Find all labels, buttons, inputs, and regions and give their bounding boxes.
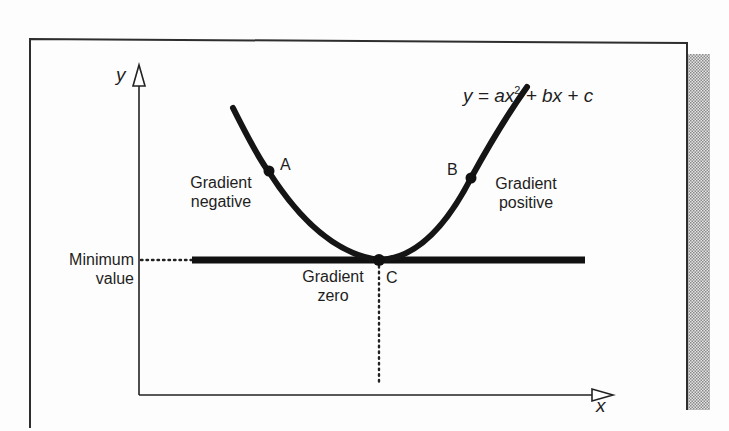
equation-suffix: + bx + c	[520, 85, 593, 106]
point-b-label: B	[447, 160, 458, 179]
point-c-marker	[373, 254, 385, 266]
y-axis-arrow-icon	[133, 65, 145, 86]
gradient-zero-line1: Gradient	[292, 267, 374, 286]
frame-shadow	[688, 54, 710, 410]
x-axis-label: x	[596, 396, 606, 415]
point-a-marker	[264, 166, 275, 177]
diagram-canvas	[0, 0, 729, 431]
point-b-marker	[466, 173, 477, 184]
gradient-negative-label: Gradient negative	[180, 173, 262, 211]
gradient-zero-label: Gradient zero	[292, 267, 374, 305]
gradient-negative-line1: Gradient	[180, 173, 262, 192]
gradient-positive-label: Gradient positive	[485, 174, 567, 212]
point-a-label: A	[280, 155, 291, 174]
minimum-value-line2: value	[44, 269, 134, 288]
gradient-positive-line2: positive	[485, 193, 567, 212]
y-axis-label: y	[116, 65, 126, 84]
parabola-diagram: y = ax2 + bx + c y x A B C Gradient nega…	[0, 0, 729, 431]
gradient-positive-line1: Gradient	[485, 174, 567, 193]
equation-prefix: y = ax	[463, 85, 514, 106]
minimum-value-line1: Minimum	[44, 250, 134, 269]
minimum-value-label: Minimum value	[44, 250, 134, 288]
parabola-curve	[233, 87, 527, 260]
equation-label: y = ax2 + bx + c	[463, 84, 593, 107]
gradient-zero-line2: zero	[292, 286, 374, 305]
gradient-negative-line2: negative	[180, 192, 262, 211]
point-c-label: C	[386, 268, 398, 287]
